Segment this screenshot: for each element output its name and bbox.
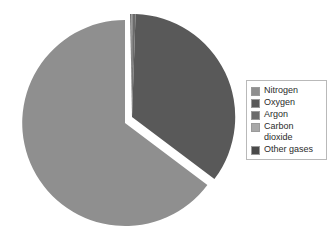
legend-item-other-gases: Other gases: [251, 144, 323, 155]
legend-swatch-other-gases: [251, 146, 260, 155]
pie-chart-figure: Nitrogen Oxygen Argon Carbon dioxide Oth…: [0, 0, 330, 252]
legend-item-nitrogen: Nitrogen: [251, 85, 323, 96]
pie-svg: [0, 0, 244, 252]
legend-label-carbon-dioxide: Carbon dioxide: [264, 121, 294, 143]
legend-label-argon: Argon: [264, 109, 288, 120]
legend-swatch-carbon-dioxide: [251, 123, 260, 132]
legend-label-nitrogen: Nitrogen: [264, 85, 298, 96]
pie-plot-area: [0, 0, 244, 252]
legend-swatch-argon: [251, 111, 260, 120]
legend-item-argon: Argon: [251, 109, 323, 120]
legend-swatch-oxygen: [251, 99, 260, 108]
legend-item-carbon-dioxide: Carbon dioxide: [251, 121, 323, 143]
legend-item-oxygen: Oxygen: [251, 97, 323, 108]
legend-label-oxygen: Oxygen: [264, 97, 295, 108]
chart-legend: Nitrogen Oxygen Argon Carbon dioxide Oth…: [246, 80, 327, 160]
legend-swatch-nitrogen: [251, 87, 260, 96]
legend-label-other-gases: Other gases: [264, 144, 313, 155]
